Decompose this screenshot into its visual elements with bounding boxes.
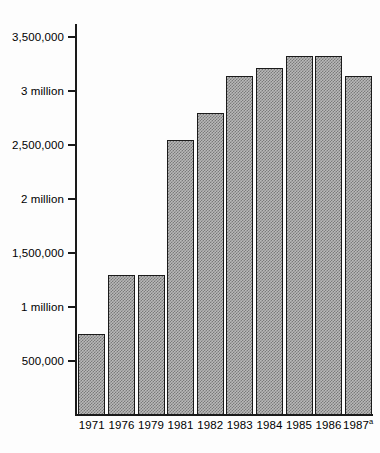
plot-area [76,24,372,415]
y-tick-mark [68,198,76,200]
y-tick-mark [68,306,76,308]
x-tick-label-1987: 1987a [338,419,378,432]
y-tick-mark [68,90,76,92]
y-tick-mark [68,36,76,38]
y-tick-mark [68,360,76,362]
bar-1987 [345,76,372,415]
bar-1971 [78,334,105,415]
y-tick-label: 3 million [21,85,64,97]
y-tick-label: 3,500,000 [12,31,64,43]
y-tick-label: 2 million [21,193,64,205]
bar-1976 [108,275,135,415]
bar-1981 [167,140,194,415]
bar-1982 [197,113,224,415]
bar-1985 [286,56,313,415]
x-tick-label-text: 1987 [343,419,369,431]
bar-chart-figure: 500,0001 million1,500,0002 million2,500,… [0,0,380,453]
y-tick-mark [68,252,76,254]
y-tick-label: 1 million [21,301,64,313]
bar-1979 [138,275,165,415]
y-tick-label: 500,000 [22,355,64,367]
y-tick-label: 2,500,000 [12,139,64,151]
bar-1983 [226,76,253,415]
y-tick-label: 1,500,000 [12,247,64,259]
y-tick-mark [68,144,76,146]
bar-1986 [315,56,342,415]
bar-1984 [256,68,283,415]
x-tick-label-superscript: a [369,417,373,426]
